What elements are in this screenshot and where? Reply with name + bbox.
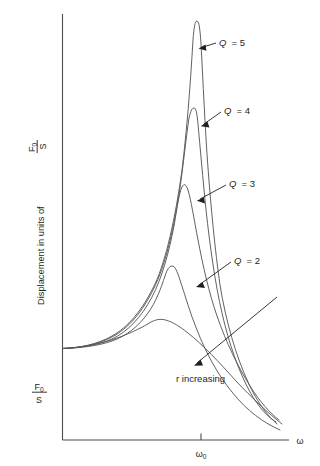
annotation-label-r-increasing: r increasing [176, 373, 225, 384]
curve-q2 [63, 266, 281, 430]
r-increasing-text: increasing [179, 373, 225, 384]
curve-low-q [63, 319, 283, 424]
q5-symbol: Q [219, 37, 227, 48]
q5-value: 5 [240, 37, 245, 48]
curves-group [63, 21, 283, 430]
annotation-label-q5: Q = 5 [219, 37, 245, 48]
omega-subscript: 0 [203, 453, 207, 460]
x-axis-symbol-omega: ω [296, 436, 303, 446]
y-axis-label-text: Displacement in units of [36, 206, 46, 305]
leader-line-q2 [199, 262, 231, 285]
arrowhead-q2 [196, 282, 205, 288]
y-origin-denominator: S [36, 395, 42, 405]
y-axis-label-fraction: F0 S [27, 140, 49, 153]
q3-value: 3 [250, 178, 255, 189]
y-origin-tick-label: F0 S [32, 382, 47, 405]
y-axis-label-fraction-numerator: F0 [27, 143, 38, 153]
q4-value-text: = [234, 105, 245, 116]
q3-value-text: = [239, 178, 250, 189]
annotation-label-q3: Q = 3 [229, 178, 255, 189]
annotation-leaders-group [194, 43, 277, 366]
resonance-chart-svg: Displacement in units of F0 S F0 S ω ω0 [0, 0, 320, 466]
omega-symbol: ω [196, 449, 203, 459]
y-axis-label-fraction-denominator: S [38, 143, 48, 149]
y-axis-label-group: Displacement in units of F0 S [27, 140, 49, 305]
q2-value: 2 [255, 255, 260, 266]
q3-symbol: Q [229, 178, 237, 189]
q4-symbol: Q [224, 105, 232, 116]
annotation-label-q2: Q = 2 [234, 255, 260, 266]
y-origin-numerator: F0 [34, 382, 44, 393]
arrowhead-r-increasing [194, 360, 203, 366]
curve-q5 [63, 21, 278, 424]
x-axis-tick-label-omega0: ω0 [196, 449, 207, 460]
annotation-labels-group: Q = 5 Q = 4 Q = 3 Q = 2 r increasing [176, 37, 260, 384]
q5-value-text: = [229, 37, 240, 48]
annotation-label-q4: Q = 4 [224, 105, 250, 116]
q2-value-text: = [244, 255, 255, 266]
q2-symbol: Q [234, 255, 242, 266]
q4-value: 4 [245, 105, 250, 116]
resonance-chart-figure: Displacement in units of F0 S F0 S ω ω0 [0, 0, 320, 466]
arrowhead-q5 [199, 44, 207, 50]
